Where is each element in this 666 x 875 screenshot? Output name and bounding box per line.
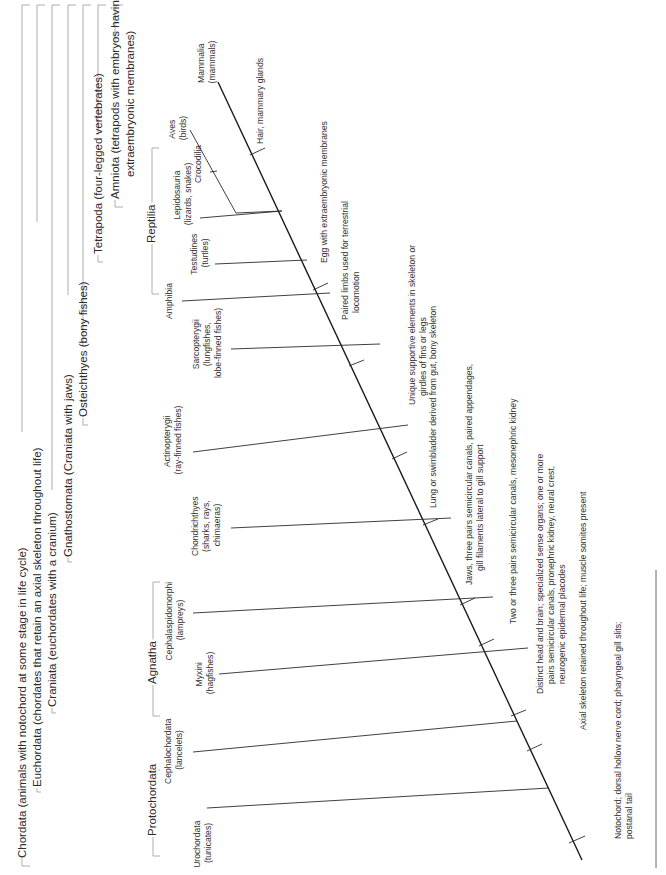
label-chordata: Chordata (animals with notochord at some… [16, 547, 28, 858]
main-axis [218, 82, 582, 860]
trait-t2: Axial skeleton retained throughout life;… [578, 491, 588, 730]
trait-t8: Paired limbs used for terrestrial locomo… [340, 199, 361, 320]
taxon-cephalaspidomorphi: Cephalaspidomorphi (lampreys) [164, 579, 185, 660]
trait-t7: Unique supportive elements in skeleton o… [407, 243, 428, 405]
tick-t4 [479, 639, 494, 646]
trait-t10: Hair, mammary glands [255, 58, 265, 144]
paraphyletic-brackets [152, 148, 160, 856]
trait-t3: Distinct head and brain; specialized sen… [535, 451, 567, 694]
tick-t6 [423, 519, 438, 525]
taxon-actinopterygii: Actinopterygii (ray-finned fishes) [162, 405, 183, 474]
trait-t9: Egg with extraembryonic membranes [319, 121, 329, 263]
cladogram-svg: Chordata (animals with notochord at some… [0, 0, 666, 875]
taxon-urochordata: Urochordata (tunicates) [192, 818, 213, 868]
trait-t1: Notochord; dorsal hollow nerve cord; pha… [613, 619, 634, 839]
paraphyletic-labels: Protochordata Agnatha Reptilia [145, 204, 158, 836]
tree-lines [182, 82, 582, 860]
bracket-tetrapoda-foot [98, 255, 103, 262]
taxon-lepidosauria: Lepidosauria (lizards, snakes) [172, 163, 193, 226]
taxon-chondrichthyes: Chondrichthyes (sharks, rays, chimaeras) [190, 494, 222, 556]
bracket-craniata-foot [52, 708, 56, 713]
bracket-amniota-foot [115, 200, 123, 207]
taxon-cephalochordata: Cephalochordata (lancelets) [163, 716, 184, 784]
label-agnatha: Agnatha [146, 641, 158, 684]
tick-t8 [349, 360, 364, 366]
bracket-euchordata-foot [37, 788, 41, 792]
branch-lepidosauria [200, 211, 282, 218]
branch-cephalochordata [193, 721, 517, 752]
tick-t10 [250, 148, 265, 155]
bracket-gnathostomata [68, 5, 76, 295]
label-amniota-line2: extraembryonic membranes) [124, 30, 136, 177]
label-protochordata: Protochordata [146, 763, 158, 836]
label-reptilia: Reptilia [145, 204, 157, 243]
tick-t7 [392, 452, 407, 459]
trait-labels: Notochord; dorsal hollow nerve cord; pha… [255, 58, 634, 839]
branch-cephalaspidomorphi [193, 597, 493, 613]
branch-urochordata [207, 788, 549, 808]
trait-t4: Two or three pairs semicircular canals, … [508, 398, 518, 624]
branch-myxini [219, 648, 528, 674]
label-craniata: Craniata (euchordates with a cranium) [46, 512, 58, 707]
bracket-osteichthyes-foot [83, 418, 88, 425]
cladogram-figure: Chordata (animals with notochord at some… [0, 0, 666, 875]
branch-sarcopterygii [231, 344, 380, 349]
taxon-mammalia: Mammalia (mammals) [196, 40, 217, 83]
taxon-aves: Aves (birds) [167, 116, 188, 140]
taxon-amphibia: Amphibia [164, 283, 174, 319]
label-osteichthyes: Osteichthyes (bony fishes) [77, 281, 89, 417]
label-euchordata: Euchordata (chordates that retain an axi… [31, 447, 43, 787]
label-amniota-line1: Amniota (tetrapods with embryos having [109, 0, 121, 199]
nested-group-labels: Chordata (animals with notochord at some… [16, 0, 136, 858]
bracket-euchordata [37, 5, 45, 222]
taxon-labels: Urochordata (tunicates) Cephalochordata … [162, 40, 223, 867]
bracket-gnathostomata-foot [68, 558, 72, 562]
bracket-chordata [22, 5, 30, 432]
branch-crocodilia [210, 171, 217, 172]
trait-t6: Lung or swimbladder derived from gut, bo… [428, 306, 438, 508]
label-tetrapoda: Tetrapoda (four-legged vertebrates) [92, 73, 104, 254]
trait-t5: Jaws, three pairs semicircular canals, p… [464, 361, 485, 585]
label-gnathostomata: Gnathostomata (Craniata with jaws) [62, 374, 74, 557]
taxon-testudines: Testudines (turtles) [189, 231, 210, 274]
bracket-chordata-foot [22, 858, 30, 866]
taxon-myxini: Myxini (hagfishes) [194, 652, 215, 695]
branch-testudines [215, 260, 307, 264]
branch-amphibia [182, 293, 330, 301]
taxon-sarcopterygii: Sarcopterygii (lungfishes, lobe-finned f… [191, 308, 223, 378]
branch-actinopterygii [193, 425, 408, 452]
branch-chondrichthyes [231, 518, 451, 528]
bracket-craniata [52, 5, 60, 490]
tick-t9 [313, 283, 328, 290]
